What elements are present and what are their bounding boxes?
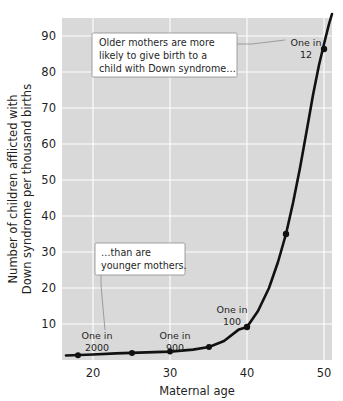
callout-older-line2: likely to give birth to a (99, 50, 207, 61)
x-tick-label: 30 (163, 366, 178, 380)
x-tick-label: 50 (317, 366, 332, 380)
point-label-one-in-2000: One in 2000 (81, 330, 112, 353)
down-syndrome-incidence-chart: 10 20 30 40 50 60 70 80 90 20 30 40 50 M… (0, 0, 343, 401)
y-tick-label: 40 (41, 209, 56, 223)
y-axis-title-line1: Number of children afflicted with (6, 94, 20, 283)
data-point (129, 350, 135, 356)
callout-older-line1: Older mothers are more (99, 37, 215, 48)
point-label-line1: One in (290, 37, 321, 48)
y-tick-label: 70 (41, 101, 56, 115)
x-tick-label: 20 (86, 366, 101, 380)
callout-older-line3: child with Down syndrome… (99, 63, 236, 74)
point-label-line1: One in (216, 304, 247, 315)
callout-older-mothers: Older mothers are more likely to give bi… (92, 33, 237, 77)
point-label-line1: One in (159, 330, 190, 341)
point-label-line1: One in (81, 330, 112, 341)
x-axis-title: Maternal age (159, 384, 235, 398)
y-axis-title: Number of children afflicted with Down s… (6, 84, 34, 294)
y-tick-label: 80 (41, 65, 56, 79)
point-label-line2: 12 (300, 49, 312, 60)
data-point (206, 344, 212, 350)
chart-figure: 10 20 30 40 50 60 70 80 90 20 30 40 50 M… (0, 0, 343, 401)
point-label-line2: 100 (223, 316, 241, 327)
y-tick-label: 60 (41, 137, 56, 151)
y-tick-label: 50 (41, 173, 56, 187)
y-axis-tick-labels: 10 20 30 40 50 60 70 80 90 (41, 29, 56, 331)
data-point (75, 352, 81, 358)
data-point (321, 46, 327, 52)
callout-younger-mothers: …than are younger mothers. (95, 243, 187, 275)
y-tick-label: 10 (41, 317, 56, 331)
data-point (244, 324, 250, 330)
x-tick-label: 40 (240, 366, 255, 380)
y-tick-label: 20 (41, 281, 56, 295)
point-label-line2: 900 (166, 342, 184, 353)
callout-younger-line2: younger mothers. (101, 260, 187, 271)
point-label-line2: 2000 (85, 342, 109, 353)
y-tick-label: 90 (41, 29, 56, 43)
y-axis-title-line2: Down syndrome per thousand births (20, 84, 34, 294)
data-point (283, 231, 289, 237)
x-axis-tick-labels: 20 30 40 50 (86, 366, 332, 380)
y-tick-label: 30 (41, 245, 56, 259)
callout-younger-line1: …than are (101, 247, 151, 258)
